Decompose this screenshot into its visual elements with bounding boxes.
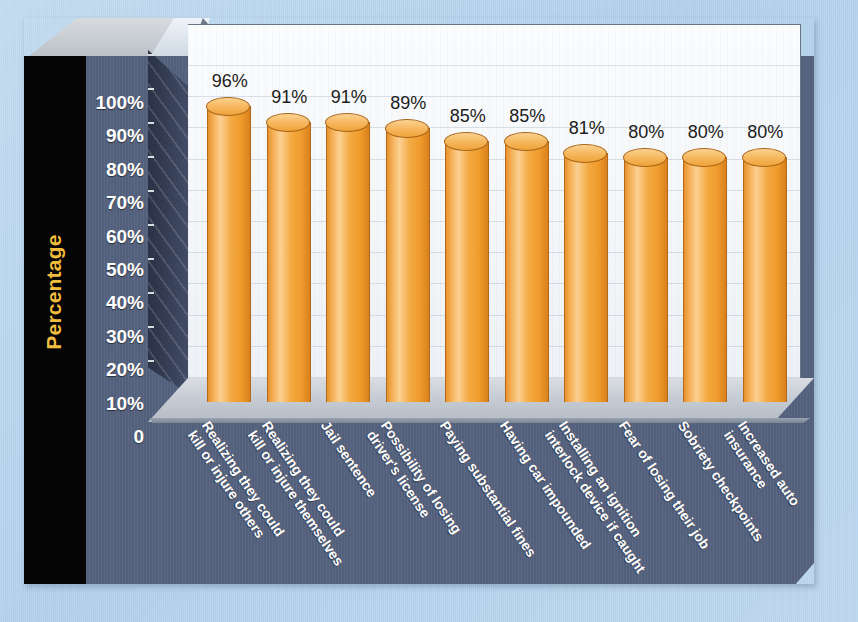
bar-value-label: 89%: [390, 93, 426, 114]
bar-top-ellipse: [325, 113, 369, 132]
bar-value-label: 85%: [450, 106, 486, 127]
bar-value-label: 80%: [628, 122, 664, 143]
bar-9: 80%: [683, 148, 727, 402]
bar-top-ellipse: [623, 148, 667, 167]
y-axis-tick-10: 10%: [86, 393, 144, 415]
bar-series: 96%91%91%89%85%85%81%80%80%80%: [188, 24, 800, 424]
bar-body: [564, 153, 608, 402]
y-axis-tick-20: 20%: [86, 359, 144, 381]
y-axis-tick-100: 100%: [86, 92, 144, 114]
bar-body: [267, 122, 311, 402]
bar-body: [326, 122, 370, 402]
bar-value-label: 81%: [569, 118, 605, 139]
bar-value-label: 85%: [509, 106, 545, 127]
y-axis-tick-60: 60%: [86, 226, 144, 248]
plot-side-wall: [148, 50, 190, 395]
bar-body: [624, 157, 668, 402]
bar-value-label: 80%: [688, 122, 724, 143]
y-axis: 100%90%80%70%60%50%40%30%20%10%0: [86, 62, 148, 402]
bar-10: 80%: [743, 148, 787, 402]
y-axis-tick-50: 50%: [86, 259, 144, 281]
bar-4: 89%: [386, 119, 430, 402]
bar-body: [683, 157, 727, 402]
bar-top-ellipse: [504, 132, 548, 151]
y-axis-tick-marks: [148, 54, 154, 394]
bar-top-ellipse: [682, 148, 726, 167]
y-axis-tick-30: 30%: [86, 326, 144, 348]
bar-value-label: 91%: [271, 87, 307, 108]
y-axis-tick-40: 40%: [86, 292, 144, 314]
bar-body: [505, 141, 549, 402]
bar-value-label: 80%: [747, 122, 783, 143]
bar-body: [386, 128, 430, 402]
bar-6: 85%: [505, 132, 549, 402]
y-axis-tick-0: 0: [86, 426, 144, 448]
axis-title-slab: Percentage: [24, 56, 86, 584]
bar-body: [445, 141, 489, 402]
bar-top-ellipse: [266, 113, 310, 132]
chart-container: Percentage 100%90%80%70%60%50%40%30%20%1…: [0, 0, 858, 622]
bar-top-ellipse: [742, 148, 786, 167]
y-axis-tick-90: 90%: [86, 125, 144, 147]
bar-value-label: 91%: [331, 87, 367, 108]
bar-7: 81%: [564, 144, 608, 402]
y-axis-tick-80: 80%: [86, 159, 144, 181]
y-axis-title: Percentage: [42, 202, 66, 382]
bar-body: [207, 106, 251, 402]
bar-top-ellipse: [206, 97, 250, 116]
bar-value-label: 96%: [212, 71, 248, 92]
bar-body: [743, 157, 787, 402]
bar-5: 85%: [445, 132, 489, 402]
bar-1: 96%: [207, 97, 251, 402]
y-axis-tick-70: 70%: [86, 192, 144, 214]
bar-top-ellipse: [444, 132, 488, 151]
bar-2: 91%: [267, 113, 311, 402]
bar-8: 80%: [624, 148, 668, 402]
bar-3: 91%: [326, 113, 370, 402]
bar-top-ellipse: [385, 119, 429, 138]
